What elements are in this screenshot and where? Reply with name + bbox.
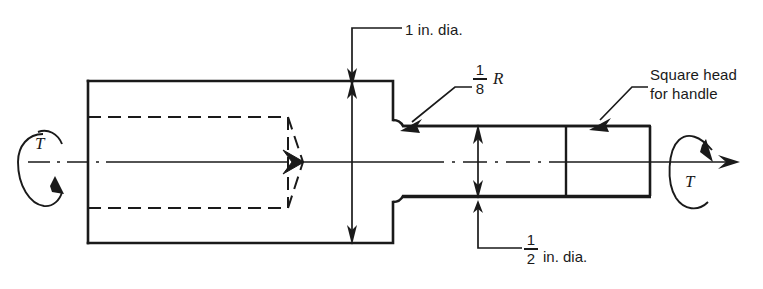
- torque-left-symbol: T: [35, 134, 44, 154]
- square-head-label-line1: Square head: [650, 65, 737, 84]
- torque-right-symbol: T: [685, 172, 694, 192]
- half-inch-suffix: in. dia.: [543, 248, 587, 266]
- square-head-label-line2: for handle: [650, 84, 718, 103]
- half-inch-diameter-label: 1 2 in. dia.: [524, 232, 587, 266]
- half-inch-numerator: 1: [525, 232, 537, 248]
- square-head-leader-line: [600, 87, 648, 120]
- shaft-outline: [393, 120, 650, 202]
- torque-left-arrowhead: [50, 176, 64, 194]
- torque-right-arrowhead: [700, 139, 713, 162]
- fillet-radius-suffix: R: [493, 69, 503, 89]
- drawing-layer: [0, 0, 763, 289]
- half-inch-denominator: 2: [525, 250, 537, 266]
- top-dimension-leader: [352, 28, 402, 78]
- fillet-radius-fraction: 1 8: [473, 62, 487, 96]
- fillet-radius-denominator: 8: [474, 80, 486, 96]
- bottom-dimension-line: [478, 133, 522, 248]
- one-inch-diameter-label: 1 in. dia.: [405, 20, 463, 39]
- fillet-radius-numerator: 1: [474, 62, 486, 78]
- fillet-radius-label: 1 8 R: [473, 62, 503, 96]
- half-inch-fraction: 1 2: [524, 232, 538, 266]
- fillet-leader-line: [412, 87, 472, 122]
- figure-canvas: 1 in. dia. 1 8 R Square head for handle …: [0, 0, 763, 289]
